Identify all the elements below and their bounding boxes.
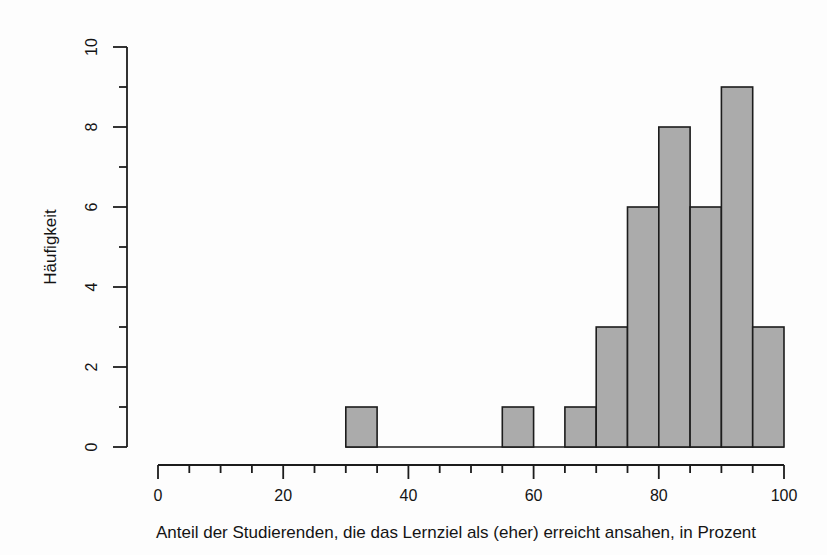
histogram-bar [628,207,659,447]
histogram-bar [565,407,596,447]
histogram-bar [690,207,721,447]
y-axis-tick-label: 4 [83,282,100,291]
y-axis-tick-label: 0 [83,442,100,451]
histogram-bar [346,407,377,447]
x-axis-tick-label: 60 [525,487,543,504]
y-axis-tick-label: 2 [83,362,100,371]
x-axis-tick-label: 20 [274,487,292,504]
histogram-bar [753,327,784,447]
y-axis-tick-label: 8 [83,122,100,131]
y-axis-tick-label: 10 [83,38,100,56]
histogram-bar [659,127,690,447]
y-axis-title: Häufigkeit [41,209,60,285]
histogram-bar [721,87,752,447]
x-axis-tick-label: 40 [400,487,418,504]
histogram-figure: 0246810020406080100 Anteil der Studieren… [0,0,827,555]
x-axis-title: Anteil der Studierenden, die das Lernzie… [156,523,756,542]
histogram-bar [596,327,627,447]
histogram-bar [502,407,533,447]
plot-layer: 0246810020406080100 [83,38,797,504]
x-axis-tick-label: 100 [771,487,798,504]
histogram-chart: 0246810020406080100 Anteil der Studieren… [0,0,827,555]
x-axis-tick-label: 0 [154,487,163,504]
x-axis-tick-label: 80 [650,487,668,504]
y-axis-tick-label: 6 [83,202,100,211]
